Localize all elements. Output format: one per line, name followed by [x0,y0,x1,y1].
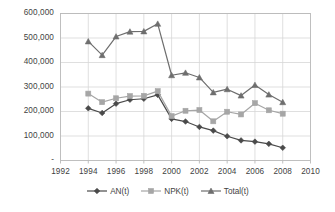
data-point-marker [114,96,119,101]
legend-marker-square-icon [140,186,162,196]
y-axis-tick-label: 400,000 [2,57,54,66]
data-point-marker [169,114,174,119]
y-axis-tick-label: 600,000 [2,8,54,17]
data-point-marker [252,101,257,106]
x-axis-tick-label: 2010 [295,167,327,176]
data-point-marker [280,145,286,151]
y-axis-tick-label: 300,000 [2,82,54,91]
data-point-marker [155,21,161,26]
data-point-marker [252,82,258,87]
legend-marker-triangle-icon [200,186,222,196]
data-point-marker [155,89,160,94]
data-point-marker [183,108,188,113]
data-point-marker [100,100,105,105]
data-point-marker [85,39,91,44]
data-point-marker [239,112,244,117]
y-axis-tick-label: 500,000 [2,33,54,42]
y-axis-tick-label: 100,000 [2,131,54,140]
chart-legend: AN(t)NPK(t)Total(t) [0,186,335,196]
data-point-marker [266,108,271,113]
data-point-marker [149,189,154,194]
legend-item: NPK(t) [140,186,189,196]
y-axis-tick-label: - [2,155,54,164]
data-point-marker [266,141,272,147]
legend-label: AN(t) [110,187,129,196]
data-point-marker [210,128,216,134]
data-point-marker [252,139,258,145]
data-point-marker [85,106,91,112]
data-point-marker [225,109,230,114]
data-point-marker [280,99,286,104]
data-point-marker [211,119,216,124]
legend-marker-diamond-icon [86,186,108,196]
data-point-marker [224,133,230,139]
data-point-marker [141,93,146,98]
data-point-marker [197,124,203,130]
data-point-marker [280,111,285,116]
legend-label: Total(t) [224,187,249,196]
legend-item: AN(t) [86,186,129,196]
data-point-marker [94,188,100,194]
data-point-marker [127,94,132,99]
data-point-marker [183,119,189,125]
legend-item: Total(t) [200,186,249,196]
legend-label: NPK(t) [164,187,189,196]
chart-container: -100,000200,000300,000400,000500,000600,… [0,0,335,212]
y-axis-tick-label: 200,000 [2,106,54,115]
data-point-marker [86,91,91,96]
data-point-marker [197,108,202,113]
data-point-marker [238,138,244,144]
